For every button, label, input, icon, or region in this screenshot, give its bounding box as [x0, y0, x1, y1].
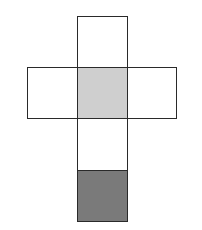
face-left: [27, 67, 78, 119]
face-lower: [77, 118, 128, 171]
face-center: [77, 67, 128, 119]
face-top: [77, 16, 128, 68]
face-right: [127, 67, 177, 119]
face-bottom: [77, 170, 128, 222]
